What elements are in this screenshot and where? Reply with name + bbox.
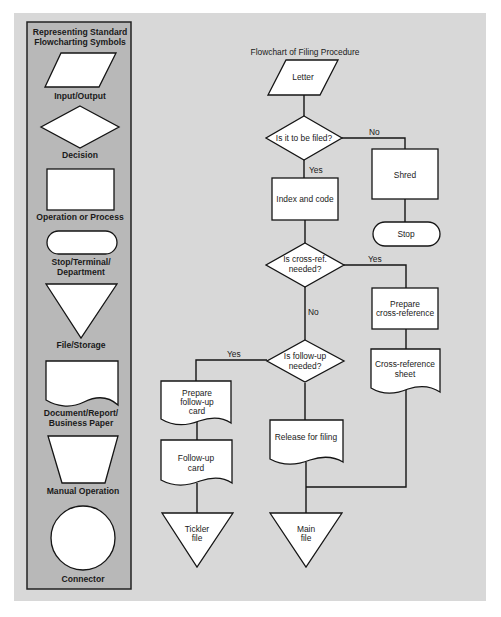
node-follow-up-needed-line1: Is follow-up — [284, 351, 327, 361]
legend-label-connector: Connector — [62, 574, 106, 584]
node-cross-ref-sheet-line1: Cross-reference — [375, 359, 435, 369]
legend-title-line2: Flowcharting Symbols — [34, 37, 126, 47]
node-letter-text: Letter — [292, 72, 314, 82]
flowchart-title: Flowchart of Filing Procedure — [251, 47, 360, 57]
document-shape — [270, 420, 343, 464]
filing-flowchart-figure: Representing Standard Flowcharting Symbo… — [0, 0, 501, 617]
node-follow-up-card-line1: Follow-up — [178, 453, 215, 463]
node-stop-text: Stop — [397, 229, 415, 239]
legend-title-line1: Representing Standard — [33, 27, 128, 37]
node-follow-up-needed-line2: needed? — [289, 361, 322, 371]
node-prepare-cross-ref-line2: cross-reference — [376, 308, 435, 318]
node-tickler-file-line2: file — [192, 533, 203, 543]
legend-label-terminal-line1: Stop/Terminal/ — [51, 257, 111, 267]
legend-label-document-line2: Business Paper — [49, 418, 114, 428]
node-follow-up-card: Follow-up card — [161, 440, 232, 485]
legend-label-manual-operation: Manual Operation — [47, 486, 120, 496]
edge-label-filed-yes: Yes — [309, 165, 323, 175]
node-to-be-filed-text: Is it to be filed? — [276, 133, 333, 143]
legend-label-decision: Decision — [62, 150, 98, 160]
document-symbol-icon — [46, 361, 118, 406]
node-cross-ref-sheet-line2: sheet — [395, 369, 416, 379]
legend-label-document-line1: Document/Report/ — [44, 408, 119, 418]
node-shred: Shred — [372, 149, 438, 199]
terminal-symbol-icon — [47, 231, 117, 254]
node-release-filing: Release for filing — [270, 420, 343, 464]
node-cross-ref-needed-line2: needed? — [289, 264, 322, 274]
legend-label-terminal-line2: Department — [57, 267, 105, 277]
edge-label-follow-up-yes: Yes — [227, 349, 241, 359]
legend-label-process: Operation or Process — [36, 212, 124, 222]
node-prepare-follow-up: Prepare follow-up card — [161, 381, 231, 425]
process-symbol-icon — [47, 169, 114, 210]
edge-label-filed-no: No — [369, 127, 380, 137]
node-prepare-follow-up-line3: card — [189, 406, 206, 416]
node-cross-ref-needed-line1: Is cross-ref. — [283, 254, 327, 264]
legend-panel: Representing Standard Flowcharting Symbo… — [27, 22, 131, 589]
node-shred-text: Shred — [394, 170, 417, 180]
node-follow-up-card-line2: card — [188, 463, 205, 473]
connector-symbol-icon — [51, 506, 115, 570]
edge-label-cross-ref-yes: Yes — [368, 254, 382, 264]
node-stop: Stop — [373, 222, 440, 246]
legend-label-input-output: Input/Output — [54, 91, 106, 101]
node-main-file-line2: file — [301, 533, 312, 543]
edge-label-cross-ref-no: No — [308, 307, 319, 317]
node-index-code: Index and code — [272, 178, 338, 220]
node-index-code-text: Index and code — [276, 194, 334, 204]
node-cross-ref-sheet: Cross-reference sheet — [371, 349, 440, 393]
node-release-filing-text: Release for filing — [275, 432, 338, 442]
legend-label-file-storage: File/Storage — [56, 340, 105, 350]
node-prepare-cross-ref: Prepare cross-reference — [372, 288, 438, 329]
